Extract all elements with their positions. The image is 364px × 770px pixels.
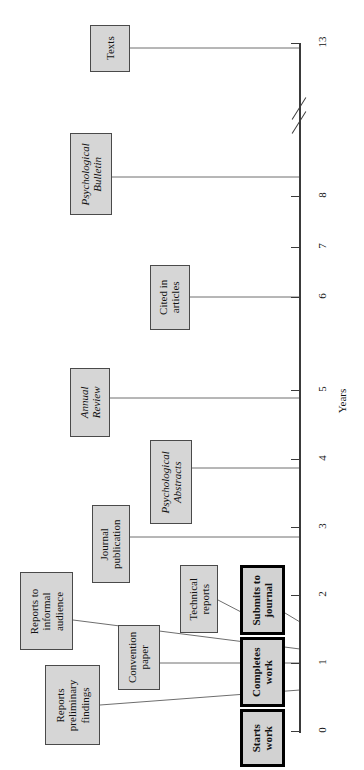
event-label-starts-work: Startswork — [250, 724, 275, 752]
axis-tick-label-5: 5 — [316, 379, 328, 399]
event-box-reports-preliminary-findings[interactable]: Reportspreliminaryfindings — [45, 665, 100, 745]
event-label-submits-to-journal: Submits tojournal — [250, 575, 275, 625]
event-box-annual-review[interactable]: AnnualReview — [70, 368, 110, 437]
event-label-texts: Texts — [104, 37, 116, 61]
event-label-technical-reports: Technicalreports — [187, 578, 212, 621]
axis-title: Years — [336, 389, 348, 414]
event-label-psychological-abstracts: PsychologicalAbstracts — [159, 451, 184, 513]
event-box-convention-paper[interactable]: Conventionpaper — [118, 625, 160, 690]
event-box-technical-reports[interactable]: Technicalreports — [180, 565, 218, 633]
axis-tick-label-4: 4 — [316, 448, 328, 468]
event-label-annual-review: AnnualReview — [78, 387, 103, 419]
event-box-starts-work[interactable]: Startswork — [240, 709, 285, 767]
event-label-convention-paper: Conventionpaper — [127, 632, 152, 683]
event-box-psychological-bulletin[interactable]: PsychologicalBulletin — [70, 133, 112, 215]
axis-tick-label-0: 0 — [316, 720, 328, 740]
axis-tick-label-13: 13 — [316, 32, 328, 52]
axis-tick-6 — [291, 297, 299, 298]
axis-tick-8 — [291, 196, 299, 197]
axis-tick-5 — [291, 390, 299, 391]
timeline-figure: 0 1 2 3 4 5 6 7 8 13 Years Texts Psychol… — [0, 0, 364, 770]
axis-tick-label-8: 8 — [316, 185, 328, 205]
event-box-cited-in-articles[interactable]: Cited inarticles — [150, 265, 190, 330]
event-label-reports-preliminary-findings: Reportspreliminaryfindings — [54, 679, 91, 730]
event-label-journal-publication: Journalpublication — [99, 519, 124, 569]
axis-tick-2 — [291, 595, 299, 596]
axis-tick-label-2: 2 — [316, 584, 328, 604]
axis-tick-7 — [291, 247, 299, 248]
event-label-psychological-bulletin: PsychologicalBulletin — [79, 143, 104, 205]
axis-tick-label-1: 1 — [316, 652, 328, 672]
axis-tick-3 — [291, 527, 299, 528]
axis-break-icon — [286, 100, 314, 132]
event-label-cited-in-articles: Cited inarticles — [158, 280, 183, 315]
axis-tick-0 — [291, 731, 299, 732]
event-box-journal-publication[interactable]: Journalpublication — [92, 505, 130, 583]
event-box-completes-work[interactable]: Completeswork — [240, 637, 285, 707]
event-box-submits-to-journal[interactable]: Submits tojournal — [240, 565, 285, 635]
event-label-completes-work: Completeswork — [250, 647, 275, 697]
axis-tick-1 — [291, 663, 299, 664]
axis-spine — [299, 43, 301, 733]
axis-tick-13 — [291, 43, 299, 44]
event-box-reports-informal-audience[interactable]: Reports toinformalaudience — [20, 572, 73, 650]
event-label-reports-informal-audience: Reports toinformalaudience — [28, 588, 65, 634]
connector-submits-to-journal — [285, 613, 300, 622]
event-box-psychological-abstracts[interactable]: PsychologicalAbstracts — [150, 440, 192, 524]
event-box-texts[interactable]: Texts — [90, 25, 130, 72]
axis-tick-4 — [291, 459, 299, 460]
axis-tick-label-6: 6 — [316, 286, 328, 306]
axis-tick-label-3: 3 — [316, 516, 328, 536]
axis-tick-label-7: 7 — [316, 236, 328, 256]
